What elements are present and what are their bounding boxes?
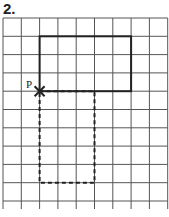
dashed-rectangle (40, 91, 95, 183)
solid-rectangle (40, 36, 132, 91)
point-p-label: P (26, 78, 32, 90)
grid-diagram (0, 0, 169, 217)
